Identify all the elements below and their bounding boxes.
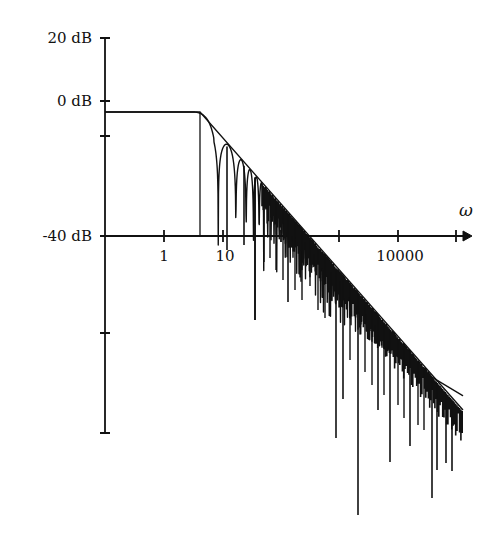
x-tick-label-10: 10 — [215, 248, 234, 264]
magnitude-response-curve — [105, 112, 463, 515]
x-axis-label-omega: ω — [459, 200, 473, 220]
bode-magnitude-plot — [0, 0, 500, 545]
x-tick-label-10000: 10000 — [376, 248, 424, 264]
y-tick-label-0db: 0 dB — [2, 93, 92, 109]
x-axis-arrow-icon — [463, 231, 472, 241]
y-tick-label-20db: 20 dB — [2, 30, 92, 46]
x-tick-label-1: 1 — [159, 248, 169, 264]
y-tick-label-minus40db: -40 dB — [2, 228, 92, 244]
